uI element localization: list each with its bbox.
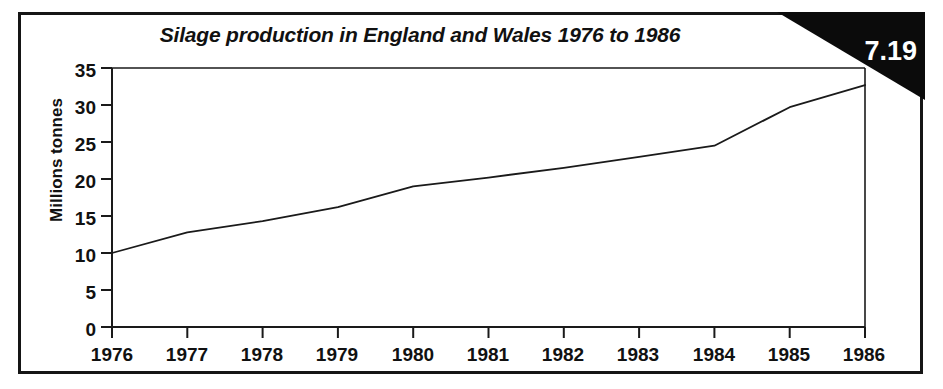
chart-svg [0,0,943,389]
x-tick-marks [112,327,865,338]
figure-container: Silage production in England and Wales 1… [0,0,943,389]
y-tick-marks [101,68,112,327]
plot-area: Millions tonnes 35 30 25 20 15 10 5 0 19… [0,0,943,389]
data-series-line [112,85,865,253]
